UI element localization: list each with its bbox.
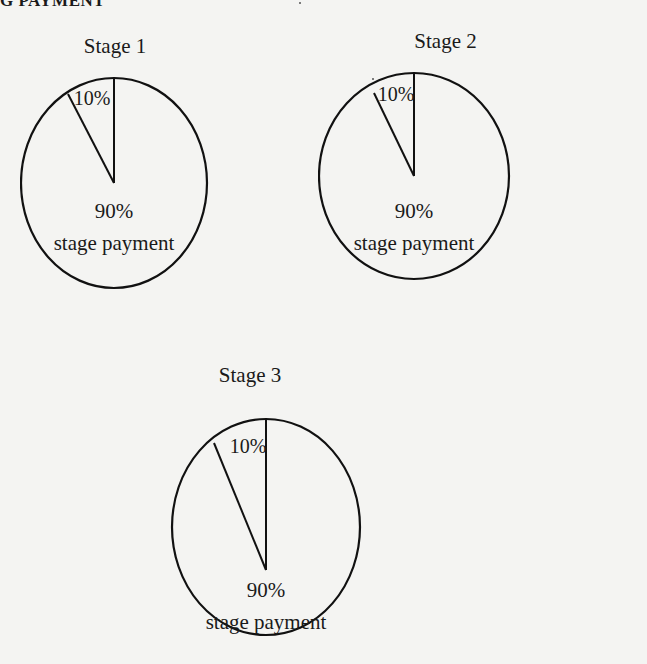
- slice-sublabel: stage payment: [54, 231, 175, 255]
- slice-label-large: 90%: [247, 578, 286, 602]
- pie-chart-stage-2: Stage 2 10% 90% stage payment: [318, 24, 518, 324]
- slice-sublabel: stage payment: [354, 231, 475, 255]
- pie-chart-stage-3: Stage 3 10% 90% stage payment: [170, 360, 370, 664]
- print-speck: [372, 78, 374, 80]
- slice-sublabel: stage payment: [206, 610, 327, 634]
- chart-title: Stage 3: [170, 363, 330, 388]
- chart-title: Stage 2: [358, 29, 533, 54]
- pie-chart-stage-1: Stage 1 10% 90% stage payment: [20, 30, 210, 330]
- slice-label-small: 10%: [230, 435, 267, 457]
- slice-label-small: 10%: [74, 87, 111, 109]
- slice-label-small: 10%: [378, 83, 415, 105]
- pie-graphic: 10% 90% stage payment: [170, 405, 370, 664]
- print-speck: [299, 2, 301, 4]
- pie-graphic: 10% 90% stage payment: [20, 68, 210, 328]
- pie-graphic: 10% 90% stage payment: [318, 64, 518, 324]
- slice-label-large: 90%: [95, 199, 134, 223]
- chart-title: Stage 1: [20, 34, 210, 59]
- section-heading: G PAYMENT: [0, 0, 105, 11]
- slice-label-large: 90%: [395, 199, 434, 223]
